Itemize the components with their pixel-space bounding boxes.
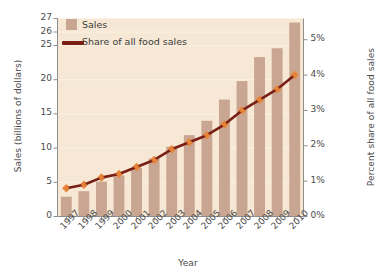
legend-swatch-share <box>62 41 84 45</box>
y-tick-label-left-0: 0 <box>14 210 52 220</box>
bar-2004 <box>184 135 195 216</box>
y-tick-label-left-27: 27 <box>14 12 52 22</box>
legend-label-share: Share of all food sales <box>82 36 187 47</box>
plot-background <box>58 19 304 217</box>
y-tick-label-right-3%: 3% <box>311 104 325 114</box>
y-tick-label-right-2%: 2% <box>311 139 325 149</box>
bar-2007 <box>237 81 248 216</box>
chart-figure: Sales (billions of dollars) Percent shar… <box>0 0 376 274</box>
bar-2010 <box>289 23 300 217</box>
y-tick-label-left-26: 26 <box>14 26 52 36</box>
bar-2009 <box>272 48 283 216</box>
y-tick-label-right-5%: 5% <box>311 33 325 43</box>
y-tick-label-left-20: 20 <box>14 73 52 83</box>
y-tick-label-right-0%: 0% <box>311 210 325 220</box>
y-tick-label-left-15: 15 <box>14 107 52 117</box>
y-tick-label-left-10: 10 <box>14 142 52 152</box>
bar-2006 <box>219 100 230 217</box>
bar-2002 <box>149 158 160 216</box>
y-tick-label-right-1%: 1% <box>311 175 325 185</box>
bar-2001 <box>131 168 142 217</box>
legend-label-sales: Sales <box>82 19 107 30</box>
bar-2008 <box>254 57 265 216</box>
y-tick-label-left-25: 25 <box>14 39 52 49</box>
y-tick-label-right-4%: 4% <box>311 69 325 79</box>
legend-swatch-sales <box>66 19 77 30</box>
y-tick-label-left-5: 5 <box>14 176 52 186</box>
bar-2003 <box>166 147 177 217</box>
